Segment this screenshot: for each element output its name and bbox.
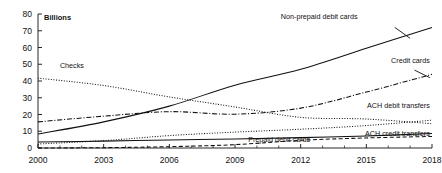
y-axis-tick-label: 30 [23,93,33,103]
payments-line-chart: 0102030405060708020002003200620092012201… [0,0,442,173]
series-label-non-prepaid-debit-cards: Non-prepaid debit cards [281,12,358,21]
y-axis-tick-label: 80 [23,9,33,19]
series-label-ach-credit-transfers: ACH credit transfers [365,129,430,138]
series-label-prepaid-debit-cards: Prepaid debit cards [248,135,310,144]
series-label-ach-debit-transfers: ACH debit transfers [367,101,430,110]
y-axis-tick-label: 0 [27,143,32,153]
x-axis-tick-label: 2009 [226,155,245,165]
series-label-credit-cards: Credit cards [391,56,430,65]
x-axis-tick-label: 2000 [29,155,48,165]
y-axis-tick-label: 60 [23,43,33,53]
series-line-non-prepaid-debit-cards [38,27,432,134]
x-axis-tick-label: 2015 [357,155,376,165]
x-axis-tick-label: 2006 [160,155,179,165]
x-axis-tick-label: 2003 [94,155,113,165]
y-axis-tick-label: 40 [23,76,33,86]
chart-canvas: 0102030405060708020002003200620092012201… [0,0,442,173]
series-label-checks: Checks [60,61,84,70]
y-axis-tick-label: 50 [23,59,33,69]
y-axis-unit-label: Billions [44,13,71,22]
y-axis-tick-label: 10 [23,126,33,136]
y-axis-tick-label: 20 [23,110,33,120]
x-axis-tick-label: 2018 [423,155,442,165]
y-axis-tick-label: 70 [23,26,33,36]
x-axis-tick-label: 2012 [291,155,310,165]
series-line-credit-cards [38,74,432,122]
